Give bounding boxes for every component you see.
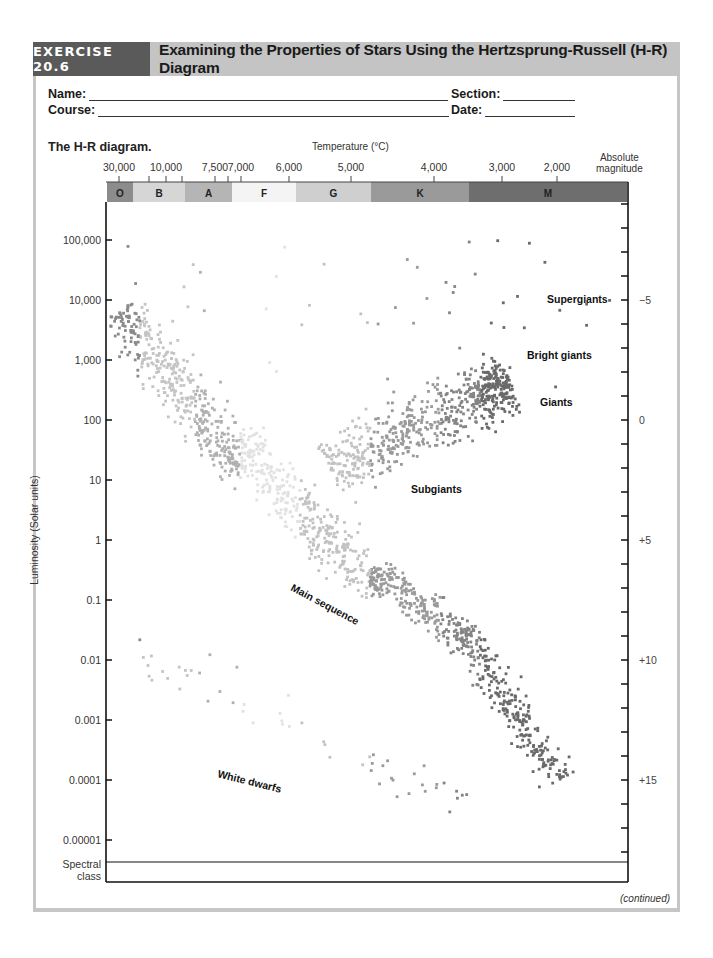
star-point xyxy=(437,639,440,642)
star-point xyxy=(506,701,509,704)
star-point xyxy=(414,395,417,398)
star-point xyxy=(572,771,575,774)
star-point xyxy=(224,409,227,412)
star-point xyxy=(324,541,327,544)
star-point xyxy=(243,452,246,455)
star-point xyxy=(519,734,522,737)
star-point xyxy=(478,663,481,666)
star-point xyxy=(474,399,477,402)
star-point xyxy=(224,470,227,473)
star-point xyxy=(178,688,181,691)
star-point xyxy=(371,463,374,466)
star-point xyxy=(377,459,380,462)
star-point xyxy=(149,329,152,332)
star-point xyxy=(536,727,539,730)
star-point xyxy=(327,562,330,565)
star-point xyxy=(197,434,200,437)
star-point xyxy=(484,665,487,668)
star-point xyxy=(494,376,497,379)
star-point xyxy=(194,393,197,396)
star-point xyxy=(423,764,426,767)
star-point xyxy=(487,673,490,676)
star-point xyxy=(123,336,126,339)
star-point xyxy=(354,501,357,504)
star-point xyxy=(200,417,203,420)
star-point xyxy=(121,318,124,321)
star-point xyxy=(421,419,424,422)
spectral-label-g: G xyxy=(330,188,338,199)
star-point xyxy=(359,459,362,462)
star-point xyxy=(365,423,368,426)
star-point xyxy=(503,326,506,329)
star-point xyxy=(347,534,350,537)
star-point xyxy=(296,520,299,523)
star-point xyxy=(379,472,382,475)
star-point xyxy=(413,772,416,775)
star-point xyxy=(474,385,477,388)
star-point xyxy=(129,329,132,332)
star-point xyxy=(335,455,338,458)
star-point xyxy=(174,377,177,380)
star-point xyxy=(410,420,413,423)
star-point xyxy=(145,321,148,324)
star-point xyxy=(522,720,525,723)
star-point xyxy=(292,467,295,470)
star-point xyxy=(467,390,470,393)
star-point xyxy=(462,426,465,429)
star-point xyxy=(416,455,419,458)
star-point xyxy=(136,369,139,372)
star-point xyxy=(168,386,171,389)
star-point xyxy=(490,658,493,661)
star-point xyxy=(356,531,359,534)
star-point xyxy=(356,455,359,458)
star-point xyxy=(355,425,358,428)
star-point xyxy=(336,477,339,480)
star-point xyxy=(441,618,444,621)
star-point xyxy=(346,576,349,579)
star-point xyxy=(357,417,360,420)
star-point xyxy=(209,439,212,442)
star-point xyxy=(408,403,411,406)
star-point xyxy=(514,705,517,708)
star-point xyxy=(487,647,490,650)
star-point xyxy=(553,759,556,762)
star-point xyxy=(401,602,404,605)
spectral-class-label-line1: Spectral xyxy=(62,858,101,870)
star-point xyxy=(492,672,495,675)
star-point xyxy=(295,509,298,512)
star-point xyxy=(498,666,501,669)
star-point xyxy=(420,434,423,437)
star-point xyxy=(512,414,515,417)
star-point xyxy=(390,777,393,780)
star-point xyxy=(322,549,325,552)
star-point xyxy=(351,445,354,448)
star-point xyxy=(446,407,449,410)
star-point xyxy=(323,515,326,518)
star-point xyxy=(482,387,485,390)
star-point xyxy=(212,458,215,461)
star-point xyxy=(535,750,538,753)
star-point xyxy=(491,413,494,416)
star-point xyxy=(500,376,503,379)
star-point xyxy=(381,455,384,458)
star-point xyxy=(343,521,346,524)
star-point xyxy=(489,387,492,390)
star-point xyxy=(345,440,348,443)
star-point xyxy=(436,614,439,617)
star-point xyxy=(502,301,505,304)
star-point xyxy=(472,403,475,406)
star-point xyxy=(199,271,202,274)
star-point xyxy=(538,768,541,771)
star-point xyxy=(289,510,292,513)
star-point xyxy=(157,389,160,392)
star-point xyxy=(401,433,404,436)
temperature-tick-label: 4,000 xyxy=(421,161,447,173)
star-point xyxy=(164,400,167,403)
star-point xyxy=(231,457,234,460)
star-point xyxy=(128,316,131,319)
star-point xyxy=(372,450,375,453)
star-point xyxy=(417,612,420,615)
star-point xyxy=(347,482,350,485)
star-point xyxy=(401,438,404,441)
star-point xyxy=(332,453,335,456)
